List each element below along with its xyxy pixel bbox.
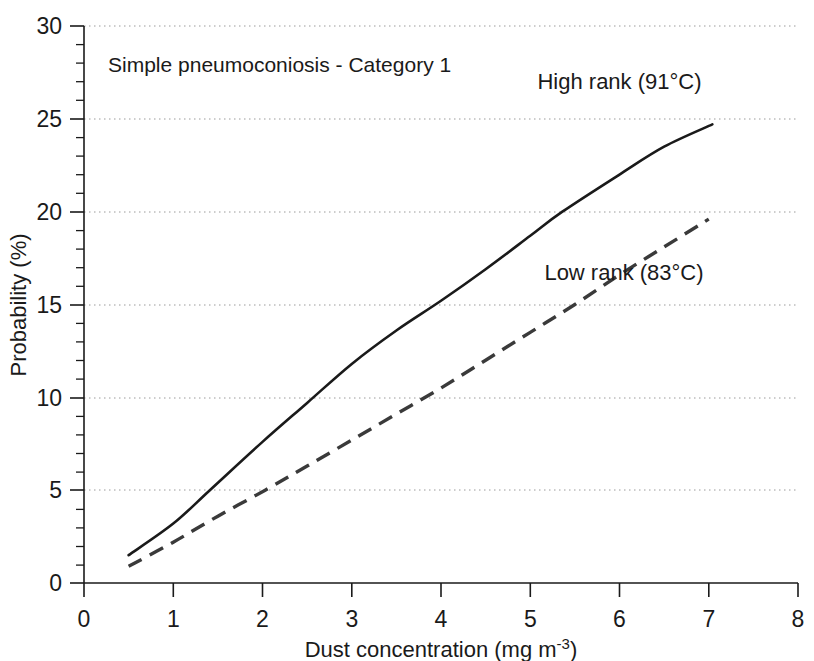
x-axis-title-superscript: -3: [557, 635, 570, 652]
y-tick-labels: 30 25 20 15 10 5 0: [36, 13, 62, 596]
series-line-high-rank: [129, 124, 713, 555]
series-label-low-rank: Low rank (83°C): [544, 260, 703, 285]
chart-figure: 30 25 20 15 10 5 0 0 1 2 3 4 5 6 7 8 Pro…: [0, 0, 814, 661]
x-tick-label: 5: [524, 606, 537, 632]
x-tick-label: 6: [613, 606, 626, 632]
x-tick-label: 8: [792, 606, 805, 632]
series-label-high-rank: High rank (91°C): [537, 69, 701, 94]
y-tick-label: 0: [49, 570, 62, 596]
x-tick-label: 7: [702, 606, 715, 632]
series-paths: [129, 124, 713, 566]
x-tick-label: 0: [78, 606, 91, 632]
x-axis-title-tail: ): [570, 637, 577, 661]
x-axis-title-main: Dust concentration (mg m: [305, 637, 557, 661]
y-axis-major-ticks: [70, 26, 84, 583]
x-tick-labels: 0 1 2 3 4 5 6 7 8: [78, 606, 805, 632]
x-tick-label: 2: [256, 606, 269, 632]
x-tick-label: 3: [345, 606, 358, 632]
y-axis-title: Probability (%): [6, 233, 31, 376]
x-tick-label: 1: [167, 606, 180, 632]
x-tick-label: 4: [435, 606, 448, 632]
x-axis-ticks: [84, 583, 798, 597]
y-tick-label: 15: [36, 292, 62, 318]
y-tick-label: 20: [36, 199, 62, 225]
y-tick-label: 30: [36, 13, 62, 39]
gridlines: [84, 26, 798, 490]
y-tick-label: 5: [49, 477, 62, 503]
y-tick-label: 25: [36, 106, 62, 132]
chart-annotation: Simple pneumoconiosis - Category 1: [108, 53, 451, 76]
x-axis-title: Dust concentration (mg m-3): [305, 635, 578, 661]
y-tick-label: 10: [36, 385, 62, 411]
line-chart-plot: 30 25 20 15 10 5 0 0 1 2 3 4 5 6 7 8 Pro…: [0, 0, 814, 661]
